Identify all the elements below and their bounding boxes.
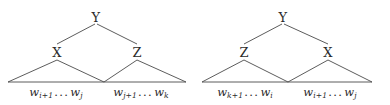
node-label-right-root: Y: [279, 11, 288, 24]
left-tree-triangles: [8, 60, 186, 82]
node-label-left-child-0: X: [52, 46, 61, 59]
leaf-end-subscript: j: [80, 91, 82, 100]
leaf-end-subscript: j: [354, 91, 356, 100]
edge-y-to-z-right: [244, 24, 282, 44]
leaf-word-symbol-end: w: [260, 85, 270, 99]
leaf-span-left-0: wi+1...wj: [29, 87, 82, 99]
leaf-start-subscript: j+1: [123, 91, 137, 100]
left-tree-edges: [57, 24, 137, 44]
leaf-ellipsis: ...: [53, 85, 70, 99]
leaf-span-left-1: wj+1...wk: [113, 87, 168, 99]
edge-y-to-x: [57, 24, 95, 44]
leaf-ellipsis: ...: [243, 85, 260, 99]
leaf-word-symbol: w: [217, 85, 227, 99]
leaf-word-symbol: w: [303, 85, 313, 99]
leaf-end-subscript: i: [270, 91, 273, 100]
leaf-span-right-0: wk+1...wi: [217, 87, 273, 99]
right-tree-triangles: [202, 60, 372, 82]
leaf-word-symbol-end: w: [154, 85, 164, 99]
edge-y-to-x-right: [284, 24, 328, 44]
node-label-left-child-1: Z: [132, 46, 141, 59]
span-triangle-left-2: [104, 60, 186, 82]
leaf-start-subscript: k+1: [227, 91, 243, 100]
leaf-word-symbol-end: w: [70, 85, 80, 99]
edge-y-to-z: [97, 24, 137, 44]
parse-tree-figure: Y X Z wi+1...wj wj+1...wk Y Z X wk+1...w…: [0, 0, 390, 105]
leaf-word-symbol-end: w: [344, 85, 354, 99]
leaf-start-subscript: i+1: [313, 91, 327, 100]
leaf-end-subscript: k: [164, 91, 169, 100]
leaf-ellipsis: ...: [327, 85, 344, 99]
leaf-span-right-1: wi+1...wj: [303, 87, 356, 99]
leaf-word-symbol: w: [29, 85, 39, 99]
leaf-word-symbol: w: [113, 85, 123, 99]
node-label-right-child-1: X: [323, 46, 332, 59]
span-triangle-right-1: [202, 60, 288, 82]
right-tree-edges: [244, 24, 328, 44]
node-label-right-child-0: Z: [239, 46, 248, 59]
span-triangle-left-1: [8, 60, 104, 82]
span-triangle-right-2: [288, 60, 372, 82]
node-label-left-root: Y: [92, 11, 101, 24]
leaf-ellipsis: ...: [137, 85, 154, 99]
leaf-start-subscript: i+1: [39, 91, 53, 100]
